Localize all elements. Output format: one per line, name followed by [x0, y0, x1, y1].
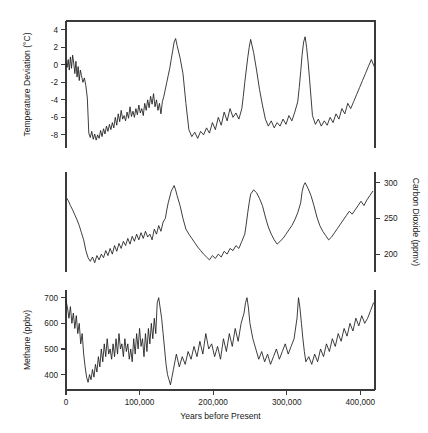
x-ticklabel: 400,000	[345, 398, 375, 407]
methane-y-ticklabel: 400	[44, 371, 58, 380]
temperature-y-ticklabel: -4	[51, 96, 59, 105]
x-axis-label: Years before Present	[180, 411, 261, 421]
chart-canvas: 420-2-4-6-8Temperature Deviation (°C)300…	[0, 0, 428, 433]
x-ticklabel: 200,000	[198, 398, 228, 407]
co2-axis-label: Carbon Dioxide (ppmv)	[411, 178, 421, 266]
methane-y-ticklabel: 700	[44, 294, 58, 303]
x-ticklabel: 300,000	[272, 398, 302, 407]
temperature-panel-frame	[66, 21, 375, 148]
co2-y-ticklabel: 200	[384, 250, 398, 259]
x-ticklabel: 100,000	[125, 398, 155, 407]
paleoclimate-figure: 420-2-4-6-8Temperature Deviation (°C)300…	[0, 0, 428, 433]
temperature-y-ticklabel: -6	[51, 113, 59, 122]
methane-axis-label: Methane (ppbv)	[22, 310, 32, 370]
temperature-axis-label: Temperature Deviation (°C)	[22, 32, 32, 136]
co2-y-ticklabel: 300	[384, 179, 398, 188]
co2-y-ticklabel: 250	[384, 214, 398, 223]
temperature-y-ticklabel: 2	[53, 43, 58, 52]
temperature-y-ticklabel: 0	[53, 61, 58, 70]
methane-series	[66, 298, 374, 385]
x-ticklabel: 0	[64, 398, 69, 407]
temperature-y-ticklabel: -2	[51, 78, 59, 87]
temperature-y-ticklabel: 4	[53, 26, 58, 35]
methane-y-ticklabel: 600	[44, 319, 58, 328]
methane-y-ticklabel: 500	[44, 345, 58, 354]
co2-series	[66, 183, 373, 263]
temperature-series	[66, 37, 374, 140]
temperature-y-ticklabel: -8	[51, 131, 59, 140]
